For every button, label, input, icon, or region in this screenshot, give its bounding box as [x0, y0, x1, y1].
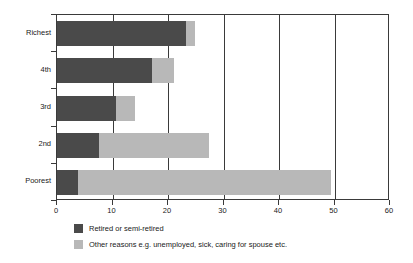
bar-segment-4th-series2 [152, 58, 174, 83]
bar-segment-3rd-series1 [57, 96, 116, 121]
legend-label-2: Other reasons e.g. unemployed, sick, car… [89, 240, 287, 249]
bar-group-richest [57, 21, 195, 46]
y-axis-labels: Richest4th3rd2ndPoorest [0, 0, 51, 263]
legend-item-1[interactable]: Retired or semi-retired [74, 222, 404, 235]
chart-container: Richest4th3rd2ndPoorest 0102030405060 Re… [0, 0, 413, 263]
x-axis-label-60: 60 [377, 206, 401, 215]
x-axis-label-40: 40 [266, 206, 290, 215]
legend-label-1: Retired or semi-retired [89, 224, 164, 233]
bar-segment-3rd-series2 [116, 96, 135, 121]
bar-segment-4th-series1 [57, 58, 152, 83]
x-tick-60 [389, 200, 390, 205]
y-axis-label-poorest: Poorest [5, 176, 51, 185]
legend-swatch-icon-1 [74, 224, 83, 233]
bar-group-2nd [57, 133, 209, 158]
x-tick-40 [278, 200, 279, 205]
bar-segment-poorest-series1 [57, 170, 78, 195]
x-tick-0 [56, 200, 57, 205]
x-axis-label-10: 10 [100, 206, 124, 215]
y-axis-label-3rd: 3rd [5, 102, 51, 111]
chart-legend: Retired or semi-retiredOther reasons e.g… [74, 222, 404, 254]
bar-segment-richest-series2 [186, 21, 195, 46]
bar-segment-2nd-series1 [57, 133, 99, 158]
x-tick-20 [167, 200, 168, 205]
x-tick-50 [334, 200, 335, 205]
y-axis-label-4th: 4th [5, 65, 51, 74]
x-axis-label-20: 20 [155, 206, 179, 215]
bars-layer [57, 15, 388, 199]
bar-segment-2nd-series2 [99, 133, 209, 158]
y-axis-label-richest: Richest [5, 28, 51, 37]
x-axis-label-50: 50 [322, 206, 346, 215]
x-tick-10 [112, 200, 113, 205]
y-axis-label-2nd: 2nd [5, 139, 51, 148]
plot-area [56, 14, 389, 200]
x-axis-label-30: 30 [211, 206, 235, 215]
legend-swatch-icon-2 [74, 240, 83, 249]
bar-segment-poorest-series2 [78, 170, 331, 195]
bar-group-poorest [57, 170, 331, 195]
x-axis-label-0: 0 [44, 206, 68, 215]
legend-item-2[interactable]: Other reasons e.g. unemployed, sick, car… [74, 238, 404, 251]
bar-group-4th [57, 58, 174, 83]
bar-group-3rd [57, 96, 135, 121]
x-tick-30 [223, 200, 224, 205]
bar-segment-richest-series1 [57, 21, 186, 46]
